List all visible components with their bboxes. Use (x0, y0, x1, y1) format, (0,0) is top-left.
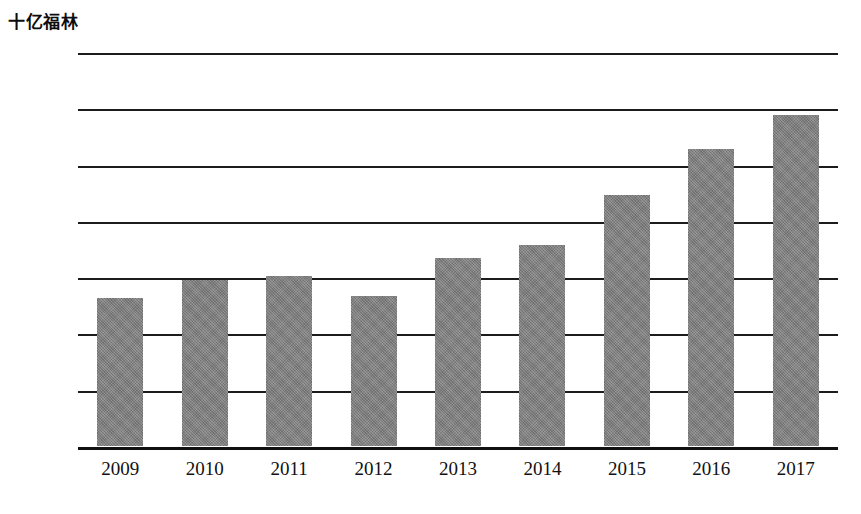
bar-2014 (519, 245, 565, 446)
bar-slot-2015 (590, 54, 664, 448)
x-tick-label-2012: 2012 (337, 458, 411, 480)
y-axis-unit-title: 十亿福林 (8, 8, 78, 33)
plot-area: 0100200300400500600700 20092010201120122… (78, 54, 838, 448)
chart-page: 十亿福林 0100200300400500600700 200920102011… (0, 0, 861, 514)
bar-slot-2009 (83, 54, 157, 448)
x-tick-label-2009: 2009 (83, 458, 157, 480)
bar-2011 (266, 276, 312, 446)
bar-slot-2013 (421, 54, 495, 448)
bar-slot-2011 (252, 54, 326, 448)
x-tick-label-2014: 2014 (505, 458, 579, 480)
bar-2017 (773, 115, 819, 446)
bar-slot-2017 (759, 54, 833, 448)
bar-2016 (688, 149, 734, 446)
x-tick-label-2011: 2011 (252, 458, 326, 480)
x-tick-label-2013: 2013 (421, 458, 495, 480)
bar-2013 (435, 258, 481, 446)
bar-2009 (97, 298, 143, 446)
bar-slot-2016 (674, 54, 748, 448)
bar-2015 (604, 195, 650, 446)
x-tick-label-2010: 2010 (168, 458, 242, 480)
bar-2012 (351, 296, 397, 446)
bar-slot-2014 (505, 54, 579, 448)
bar-slot-2012 (337, 54, 411, 448)
bar-slot-2010 (168, 54, 242, 448)
x-tick-label-2015: 2015 (590, 458, 664, 480)
bar-series (78, 54, 838, 448)
bar-2010 (182, 280, 228, 446)
x-tick-label-2017: 2017 (759, 458, 833, 480)
x-tick-label-2016: 2016 (674, 458, 748, 480)
